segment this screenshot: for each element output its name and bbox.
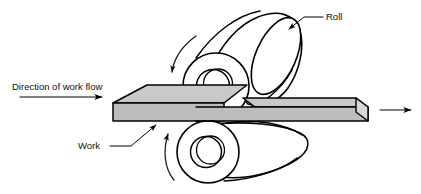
exit-slab-top-face xyxy=(243,98,368,107)
workpiece-exit xyxy=(243,98,368,121)
diagram-canvas: Direction of work flow Roll Work xyxy=(0,0,421,194)
exit-slab-front-face xyxy=(255,107,368,121)
work-label: Work xyxy=(78,140,100,151)
direction-of-work-flow-label: Direction of work flow xyxy=(12,81,102,92)
roll-label: Roll xyxy=(326,11,342,22)
gap-strip-fill xyxy=(215,107,258,121)
rolling-process-diagram: Direction of work flow Roll Work xyxy=(0,0,421,194)
entry-slab-front-face xyxy=(113,103,224,121)
